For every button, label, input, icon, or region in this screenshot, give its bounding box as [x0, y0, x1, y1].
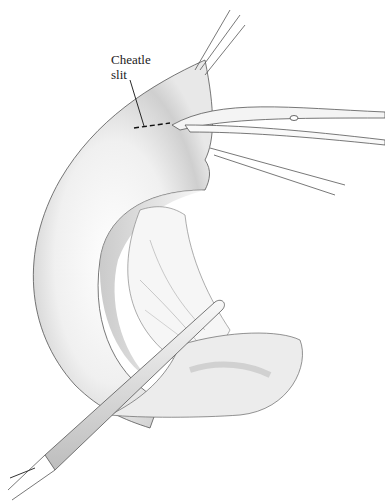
surgical-illustration	[0, 0, 385, 503]
cheatle-slit-label-line1: Cheatle	[111, 52, 151, 67]
cheatle-slit-label-line2: slit	[111, 67, 151, 82]
forceps-right	[210, 148, 345, 195]
cheatle-slit-label: Cheatle slit	[111, 52, 151, 82]
